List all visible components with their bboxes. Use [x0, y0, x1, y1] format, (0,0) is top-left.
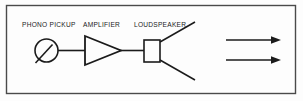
phono-pickup-label: PHONO PICKUP	[22, 21, 76, 28]
phono-stylus-icon	[36, 45, 53, 64]
amplifier-triangle-icon	[85, 36, 121, 65]
block-diagram-figure: PHONO PICKUP AMPLIFIER LOUDSPEAKER	[0, 0, 303, 101]
diagram-canvas: PHONO PICKUP AMPLIFIER LOUDSPEAKER	[0, 0, 303, 101]
speaker-radiation-lower-icon	[160, 60, 195, 80]
sound-wave-arrow-lower-head	[271, 56, 281, 64]
phono-pickup-group	[35, 39, 58, 63]
sound-wave-arrows	[226, 36, 281, 64]
loudspeaker-label: LOUDSPEAKER	[134, 21, 186, 28]
loudspeaker-group	[144, 22, 195, 80]
sound-wave-arrow-upper-head	[271, 36, 281, 44]
loudspeaker-box-icon	[144, 40, 160, 62]
amplifier-label: AMPLIFIER	[83, 21, 120, 28]
